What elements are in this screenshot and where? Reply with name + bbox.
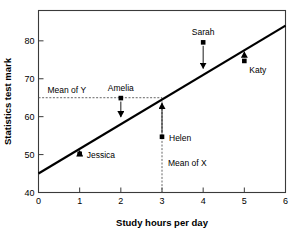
data-point-label: Sarah bbox=[192, 27, 215, 37]
y-tick-label: 70 bbox=[24, 74, 34, 84]
data-point-marker bbox=[160, 134, 165, 139]
x-axis-title: Study hours per day bbox=[116, 217, 209, 228]
y-tick-label: 50 bbox=[24, 150, 34, 160]
data-point-label: Amelia bbox=[108, 83, 134, 93]
data-point-marker bbox=[119, 96, 124, 101]
x-tick-label: 5 bbox=[242, 196, 247, 206]
data-point-label: Helen bbox=[169, 133, 191, 143]
x-tick-label: 3 bbox=[159, 196, 164, 206]
y-axis-title: Statistics test mark bbox=[2, 57, 13, 145]
mean-of-x-label: Mean of X bbox=[168, 158, 207, 168]
data-point-marker bbox=[201, 40, 206, 45]
mean-of-y-label: Mean of Y bbox=[48, 85, 87, 95]
regression-line bbox=[39, 26, 286, 174]
scatter-chart: 4050607080 0123456 JessicaAmeliaHelenSar… bbox=[0, 0, 295, 238]
chart-canvas: 4050607080 0123456 JessicaAmeliaHelenSar… bbox=[0, 0, 295, 238]
data-point-label: Jessica bbox=[87, 150, 116, 160]
x-tick-label: 4 bbox=[201, 196, 206, 206]
data-point-marker bbox=[242, 59, 247, 64]
y-tick-label: 80 bbox=[24, 36, 34, 46]
x-tick-label: 6 bbox=[283, 196, 288, 206]
y-axis-ticks: 4050607080 bbox=[24, 36, 43, 198]
data-point-labels: JessicaAmeliaHelenSarahKaty bbox=[87, 27, 267, 159]
fitted-regression-line bbox=[39, 26, 286, 174]
y-tick-label: 60 bbox=[24, 112, 34, 122]
data-point-label: Katy bbox=[249, 65, 267, 75]
x-tick-label: 1 bbox=[77, 196, 82, 206]
x-tick-label: 0 bbox=[36, 196, 41, 206]
x-tick-label: 2 bbox=[118, 196, 123, 206]
x-axis-ticks: 0123456 bbox=[36, 188, 288, 206]
y-tick-label: 40 bbox=[24, 188, 34, 198]
data-point-marker bbox=[77, 152, 82, 157]
